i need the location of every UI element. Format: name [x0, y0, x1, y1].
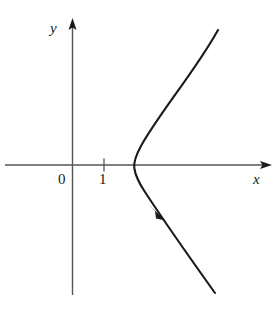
- coordinate-plot: [0, 0, 278, 309]
- parabola-curve: [134, 30, 218, 293]
- x-axis-label: x: [253, 172, 260, 187]
- origin-label: 0: [58, 172, 66, 187]
- graph-figure: y x 0 1: [0, 0, 278, 309]
- y-axis-label: y: [50, 21, 57, 36]
- x-tick-label-1: 1: [99, 172, 107, 187]
